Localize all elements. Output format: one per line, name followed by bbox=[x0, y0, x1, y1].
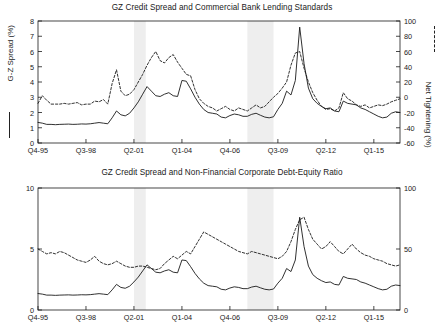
y2-tick-label: -40 bbox=[404, 124, 415, 133]
recession-shading bbox=[247, 188, 273, 310]
y2-tick-label: 40 bbox=[404, 63, 412, 72]
dashed-line-legend-marker bbox=[434, 26, 435, 52]
x-tick-label: Q3-09 bbox=[258, 146, 298, 155]
x-tick-label: Q1-04 bbox=[162, 313, 202, 322]
plot-frame bbox=[38, 188, 400, 310]
y-tick-label: 1 bbox=[12, 124, 34, 133]
lending-standards-plot bbox=[0, 0, 444, 166]
x-tick-label: Q1-04 bbox=[162, 146, 202, 155]
x-tick-label: Q4-06 bbox=[210, 313, 250, 322]
x-tick-label: Q4-06 bbox=[210, 146, 250, 155]
recession-shading bbox=[247, 21, 273, 143]
y2-tick-label: 20 bbox=[404, 78, 412, 87]
x-tick-label: Q3-98 bbox=[66, 313, 106, 322]
series-line-dashed bbox=[38, 217, 400, 269]
y2-tick-label: -20 bbox=[404, 109, 415, 118]
series-line-solid bbox=[38, 217, 400, 295]
x-tick-label: Q2-12 bbox=[306, 146, 346, 155]
recession-shading bbox=[134, 188, 146, 310]
y2-tick-label: 0 bbox=[404, 93, 408, 102]
y-tick-label: 7 bbox=[12, 32, 34, 41]
debt-equity-plot bbox=[0, 166, 444, 333]
panel-lending-standards: GZ Credit Spread and Commercial Bank Len… bbox=[0, 0, 444, 166]
y-tick-label: 5 bbox=[12, 63, 34, 72]
x-tick-label: Q4-95 bbox=[18, 313, 58, 322]
x-tick-label: Q2-12 bbox=[306, 313, 346, 322]
y-tick-label: 5 bbox=[12, 245, 34, 254]
x-tick-label: Q3-98 bbox=[66, 146, 106, 155]
y2-tick-label: 60 bbox=[404, 48, 412, 57]
x-tick-label: Q2-01 bbox=[114, 313, 154, 322]
y-tick-label: 4 bbox=[12, 78, 34, 87]
x-tick-label: Q1-15 bbox=[354, 313, 394, 322]
plot-frame bbox=[38, 21, 400, 143]
y2-tick-label: 80 bbox=[404, 32, 412, 41]
y2-tick-label: 0 bbox=[404, 306, 408, 315]
x-tick-label: Q3-09 bbox=[258, 313, 298, 322]
y2-tick-label: -60 bbox=[404, 139, 415, 148]
panel-debt-equity: GZ Credit Spread and Non-Financial Corpo… bbox=[0, 166, 444, 333]
x-tick-label: Q1-15 bbox=[354, 146, 394, 155]
y-tick-label: 3 bbox=[12, 93, 34, 102]
y2-tick-label: 100 bbox=[404, 184, 416, 193]
solid-line-legend-marker bbox=[9, 112, 10, 138]
y-tick-label: 6 bbox=[12, 48, 34, 57]
y2-tick-label: 50 bbox=[404, 245, 412, 254]
recession-shading bbox=[134, 21, 146, 143]
y-tick-label: 2 bbox=[12, 109, 34, 118]
y-tick-label: 8 bbox=[12, 17, 34, 26]
x-tick-label: Q4-95 bbox=[18, 146, 58, 155]
x-tick-label: Q2-01 bbox=[114, 146, 154, 155]
y2-tick-label: 100 bbox=[404, 17, 416, 26]
y-tick-label: 10 bbox=[12, 184, 34, 193]
